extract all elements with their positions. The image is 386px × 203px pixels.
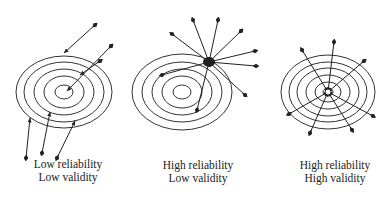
arrow (64, 25, 95, 53)
arrow (26, 118, 30, 158)
target-ring (142, 62, 222, 122)
caption-line-validity: High validity (280, 172, 386, 185)
caption-line-validity: Low validity (13, 171, 123, 184)
panels-group (16, 20, 375, 158)
arrow (197, 62, 209, 110)
target-ring (24, 62, 104, 122)
target-high-rel-high-val (281, 42, 375, 133)
target-ring (44, 76, 84, 108)
caption-line-reliability: High reliability (280, 159, 386, 172)
arrow (328, 42, 334, 92)
caption-line-reliability: Low reliability (13, 158, 123, 171)
arrow (209, 31, 241, 62)
caption-low-reliability-low-validity: Low reliability Low validity (13, 158, 123, 184)
arrow (209, 62, 245, 95)
target-ring (16, 56, 112, 128)
caption-line-reliability: High reliability (143, 159, 253, 172)
target-high-rel-low-val (132, 20, 256, 130)
arrow (209, 20, 218, 62)
target-low-rel-low-val (16, 25, 112, 158)
caption-high-reliability-low-validity: High reliability Low validity (143, 159, 253, 185)
bullseye (325, 89, 331, 95)
target-ring (173, 85, 191, 99)
arrow (57, 121, 75, 158)
arrow (209, 51, 255, 62)
caption-line-validity: Low validity (143, 172, 253, 185)
target-ring (162, 76, 202, 108)
caption-high-reliability-high-validity: High reliability High validity (280, 159, 386, 185)
target-ring (132, 54, 232, 130)
arrow (80, 61, 100, 75)
